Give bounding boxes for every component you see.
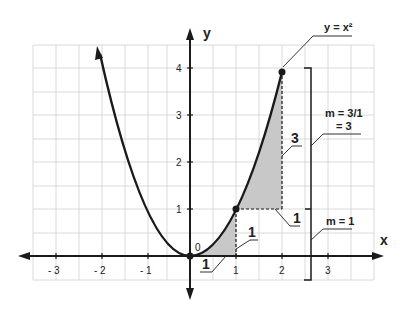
y-tick-1: 1 — [176, 204, 182, 215]
y-axis-label: y — [203, 25, 211, 41]
x-tick--3: - 3 — [48, 265, 60, 276]
slope-large-line2: = 3 — [336, 120, 352, 132]
run-1-small-label: 1 — [202, 256, 210, 272]
x-axis-right-arrow-icon — [372, 252, 384, 260]
y-tick-3: 3 — [176, 110, 182, 121]
y-axis-up-arrow-icon — [186, 28, 194, 40]
y-tick-2: 2 — [176, 157, 182, 168]
parabola-slope-diagram: y = x² y x 0 - 3 - 2 - 1 1 2 3 1 2 3 4 3… — [0, 0, 403, 312]
rise-1-small-label: 1 — [248, 224, 256, 240]
y-axis-down-arrow-icon — [186, 288, 194, 300]
point-origin — [187, 253, 194, 260]
x-tick-2: 2 — [279, 265, 285, 276]
slope-large-line1: m = 3/1 — [325, 107, 363, 119]
x-tick-3: 3 — [325, 265, 331, 276]
rise3-leader — [282, 146, 302, 156]
x-axis-label: x — [380, 232, 388, 248]
x-tick-1: 1 — [233, 265, 239, 276]
y-tick-4: 4 — [176, 63, 182, 74]
x-tick--2: - 2 — [94, 265, 106, 276]
point-1-1 — [233, 206, 240, 213]
small-slope-leader — [311, 229, 352, 240]
large-slope-leader — [311, 134, 361, 146]
x-tick--1: - 1 — [140, 265, 152, 276]
slope-small-label: m = 1 — [326, 215, 354, 227]
rise1-small-leader — [236, 240, 258, 249]
grid — [33, 45, 374, 280]
point-2-4 — [279, 69, 286, 76]
rise-3-label: 3 — [291, 130, 299, 146]
origin-label: 0 — [195, 242, 201, 253]
curve-label: y = x² — [324, 21, 353, 33]
x-axis-left-arrow-icon — [18, 252, 30, 260]
run-1-large-label: 1 — [293, 210, 301, 226]
curve-label-leader — [283, 36, 352, 67]
